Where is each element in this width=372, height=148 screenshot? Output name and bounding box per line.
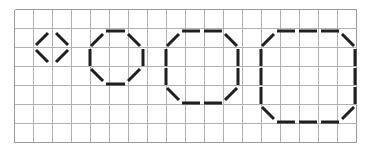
shape-octagon-2 [90, 31, 143, 84]
segment-bottom-right-diagonal [342, 107, 354, 119]
segment-top-right-diagonal [225, 34, 237, 46]
segment-top-left-diagonal [262, 34, 274, 46]
diagram-canvas [0, 0, 372, 148]
segment-upper-left-diagonal [36, 33, 48, 45]
segment-top-left-diagonal [167, 34, 179, 46]
segment-bottom-right-diagonal [225, 88, 237, 100]
segment-bottom-left-diagonal [262, 107, 274, 119]
segment-upper-right-diagonal [56, 33, 68, 45]
segment-bottom-right-diagonal [128, 69, 140, 81]
segment-lower-right-diagonal [56, 50, 68, 62]
figure-svg [0, 0, 372, 148]
segment-lower-left-diagonal [36, 50, 48, 62]
segment-top-right-diagonal [128, 34, 140, 46]
segment-bottom-left-diagonal [167, 88, 179, 100]
segment-top-left-diagonal [91, 34, 103, 46]
segment-bottom-left-diagonal [91, 69, 103, 81]
shapes-layer [36, 31, 355, 122]
shape-octagon-4 [261, 31, 355, 122]
segment-top-right-diagonal [342, 34, 354, 46]
